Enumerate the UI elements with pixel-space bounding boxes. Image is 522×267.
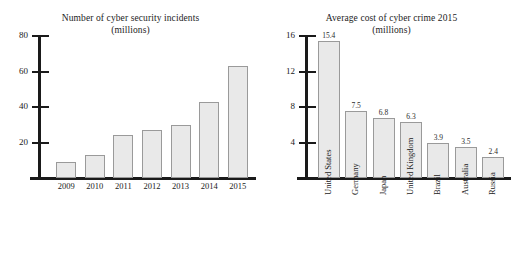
bar[interactable] <box>228 66 248 178</box>
y-tick-label: 4 <box>269 138 295 147</box>
right-chart-title: Average cost of cyber crime 2015 (millio… <box>261 12 522 36</box>
bar-slot <box>166 36 195 178</box>
category-label: 2010 <box>81 182 109 191</box>
y-tick-label: 20 <box>2 138 28 147</box>
left-chart-title-line1: Number of cyber security incidents <box>0 12 261 24</box>
category-label: United States <box>324 149 333 195</box>
bar[interactable] <box>56 162 76 178</box>
bar[interactable] <box>85 155 105 178</box>
category-label: United Kingdom <box>406 138 415 195</box>
bar-value-label: 6.3 <box>406 113 415 121</box>
y-tick-label: 80 <box>2 31 28 40</box>
y-tick-label: 40 <box>2 102 28 111</box>
y-tick-label: 8 <box>269 102 295 111</box>
bar-slot: 6.8 <box>370 36 397 178</box>
bar-slot <box>81 36 110 178</box>
category-label: 2009 <box>52 182 80 191</box>
bar-slot: 3.9 <box>425 36 452 178</box>
chart-panel-cost: Average cost of cyber crime 2015 (millio… <box>261 0 522 267</box>
left-bars-group <box>52 36 252 178</box>
category-label: 2011 <box>109 182 137 191</box>
bar-slot: 3.5 <box>452 36 479 178</box>
left-chart-title: Number of cyber security incidents (mill… <box>0 12 261 36</box>
chart-panel-incidents: Number of cyber security incidents (mill… <box>0 0 261 267</box>
bar-slot <box>109 36 138 178</box>
y-tick-mark <box>299 71 316 73</box>
y-tick-mark <box>32 71 49 73</box>
bar-value-label: 3.5 <box>461 138 470 146</box>
y-tick-mark <box>299 106 316 108</box>
dual-bar-chart-figure: Number of cyber security incidents (mill… <box>0 0 522 267</box>
bar[interactable] <box>373 118 395 178</box>
category-label: Brazil <box>433 174 442 195</box>
y-tick-mark <box>32 106 49 108</box>
bar-slot <box>195 36 224 178</box>
right-chart-title-line1: Average cost of cyber crime 2015 <box>261 12 522 24</box>
bar-value-label: 6.8 <box>379 109 388 117</box>
bar-slot <box>223 36 252 178</box>
bar-value-label: 7.5 <box>351 102 360 110</box>
y-tick-label: 12 <box>269 67 295 76</box>
y-tick-mark <box>299 35 316 37</box>
bar[interactable] <box>199 102 219 178</box>
category-label: 2015 <box>224 182 252 191</box>
bar-value-label: 15.4 <box>322 32 335 40</box>
bar-slot <box>52 36 81 178</box>
category-label: Australia <box>461 164 470 195</box>
bar[interactable] <box>171 125 191 178</box>
y-tick-label: 16 <box>269 31 295 40</box>
bar-value-label: 2.4 <box>489 148 498 156</box>
left-plot-area: 20406080 <box>38 36 256 178</box>
category-label: 2013 <box>167 182 195 191</box>
bar[interactable] <box>427 143 449 178</box>
y-tick-mark <box>32 142 49 144</box>
bar-value-label: 3.9 <box>434 134 443 142</box>
category-label: Russia <box>488 172 497 195</box>
category-label: Germany <box>351 163 360 195</box>
bar[interactable] <box>142 130 162 178</box>
category-label: Japan <box>379 176 388 195</box>
y-tick-mark <box>32 35 49 37</box>
bar-slot: 2.4 <box>480 36 507 178</box>
bar-slot: 7.5 <box>342 36 369 178</box>
bar[interactable] <box>113 135 133 178</box>
category-label: 2012 <box>138 182 166 191</box>
category-label: 2014 <box>195 182 223 191</box>
y-tick-mark <box>299 142 316 144</box>
y-tick-label: 60 <box>2 67 28 76</box>
bar-slot <box>138 36 167 178</box>
